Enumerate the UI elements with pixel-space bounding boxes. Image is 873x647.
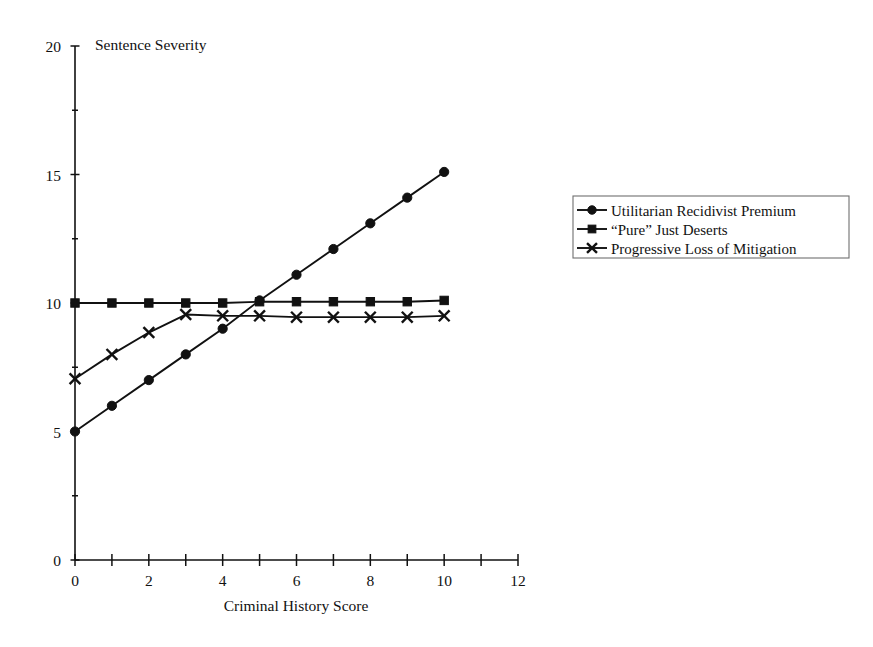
marker-circle — [403, 193, 412, 202]
x-tick-label: 8 — [366, 572, 374, 589]
marker-square — [588, 225, 596, 233]
marker-square — [440, 296, 448, 304]
y-axis-title: Sentence Severity — [95, 36, 207, 53]
x-tick-label: 2 — [145, 572, 153, 589]
marker-square — [182, 299, 190, 307]
marker-square — [108, 299, 116, 307]
series-layer — [70, 167, 450, 436]
series-3 — [70, 309, 450, 384]
marker-circle — [107, 401, 116, 410]
x-tick-label: 6 — [293, 572, 301, 589]
legend-label: Progressive Loss of Mitigation — [611, 241, 797, 257]
marker-circle — [218, 324, 227, 333]
marker-circle — [440, 167, 449, 176]
marker-circle — [588, 206, 596, 214]
x-tick-label: 12 — [510, 572, 526, 589]
marker-circle — [366, 219, 375, 228]
y-tick-label: 10 — [46, 295, 62, 312]
marker-square — [255, 298, 263, 306]
marker-x — [107, 349, 118, 360]
y-tick-label: 0 — [53, 552, 61, 569]
chart-container: 05101520 024681012 Sentence Severity Cri… — [0, 0, 873, 647]
marker-square — [292, 298, 300, 306]
legend-label: Utilitarian Recidivist Premium — [611, 203, 796, 219]
marker-x — [143, 327, 154, 338]
marker-circle — [144, 376, 153, 385]
y-tick-label: 20 — [46, 38, 62, 55]
marker-square — [71, 299, 79, 307]
marker-circle — [70, 427, 79, 436]
x-axis: 024681012 — [71, 554, 526, 589]
marker-square — [218, 299, 226, 307]
marker-square — [366, 298, 374, 306]
marker-circle — [181, 350, 190, 359]
marker-square — [403, 298, 411, 306]
y-tick-label: 5 — [53, 424, 61, 441]
x-tick-label: 0 — [71, 572, 79, 589]
line-chart: 05101520 024681012 Sentence Severity Cri… — [0, 0, 873, 647]
series-line-3 — [75, 315, 444, 379]
series-2 — [71, 296, 449, 307]
marker-square — [145, 299, 153, 307]
y-tick-label: 15 — [46, 167, 62, 184]
x-tick-label: 10 — [436, 572, 452, 589]
marker-circle — [329, 244, 338, 253]
x-axis-title: Criminal History Score — [224, 597, 369, 614]
legend-label: “Pure” Just Deserts — [611, 222, 728, 238]
x-tick-label: 4 — [219, 572, 227, 589]
marker-square — [329, 298, 337, 306]
chart-legend: Utilitarian Recidivist Premium“Pure” Jus… — [573, 196, 849, 258]
marker-circle — [292, 270, 301, 279]
